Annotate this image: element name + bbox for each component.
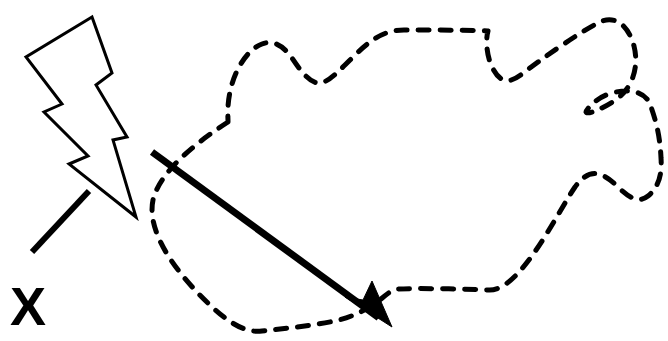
diagram-illustration: X [0, 0, 668, 341]
marker-label-x: X [10, 276, 46, 336]
diagram-canvas: X [0, 0, 668, 341]
